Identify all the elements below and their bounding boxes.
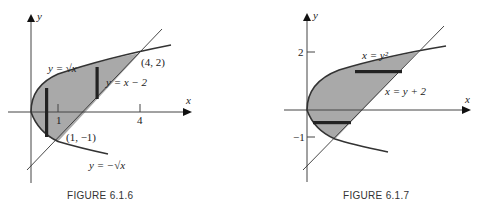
figure-6-1-6: x y 1 4 y = √x y = x − 2 y = −√x (4, 2) …	[8, 10, 192, 201]
point-label-1-neg1: (1, −1)	[66, 131, 96, 144]
label-sqrt-x: y = √x	[47, 62, 77, 74]
y-tick-label-2: 2	[298, 46, 304, 58]
x-tick-label-1: 1	[56, 114, 62, 126]
x-axis-label: x	[185, 94, 191, 106]
label-x-equals-y-squared: x = y²	[361, 49, 389, 61]
y-axis-label: y	[312, 9, 318, 21]
point-label-4-2: (4, 2)	[141, 56, 165, 69]
label-x-minus-2: y = x − 2	[105, 76, 148, 88]
y-axis-arrow-icon	[303, 13, 311, 21]
y-tick-label-neg1: −1	[293, 131, 305, 143]
horizontal-strip-upper	[355, 70, 402, 73]
vertical-strip-right	[96, 67, 99, 99]
x-axis-arrow-icon	[462, 106, 471, 114]
y-axis-arrow-icon	[27, 14, 35, 22]
figure-caption: FIGURE 6.1.7	[343, 190, 410, 201]
figure-caption: FIGURE 6.1.6	[67, 190, 134, 201]
x-tick-label-4: 4	[137, 114, 143, 126]
vertical-strip-left	[45, 88, 48, 137]
label-neg-sqrt-x: y = −√x	[88, 159, 125, 171]
figure-6-1-7: x y 2 −1 x = y² x = y + 2 FIGURE 6.1.7	[284, 9, 471, 201]
x-axis-label: x	[464, 93, 470, 105]
label-x-equals-y-plus-2: x = y + 2	[384, 85, 427, 97]
horizontal-strip-lower	[313, 121, 351, 124]
x-axis-arrow-icon	[183, 108, 192, 116]
y-axis-label: y	[36, 10, 42, 22]
